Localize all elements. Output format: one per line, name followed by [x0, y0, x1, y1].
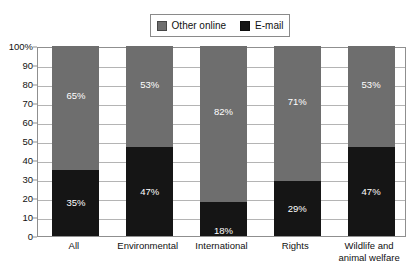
y-axis-tick-label: 60	[0, 118, 33, 128]
x-axis-category-label: Wildlife andanimal welfare	[332, 240, 406, 264]
y-axis-tick-label: 30	[0, 175, 33, 185]
bar-segment-other-online[interactable]: 65%	[52, 46, 99, 170]
bar-segment-email[interactable]: 35%	[52, 170, 99, 237]
bar-group: 29%71%	[274, 48, 321, 236]
bar-value-label: 18%	[214, 226, 233, 236]
bar-segment-other-online[interactable]: 53%	[126, 46, 173, 147]
bar-segment-other-online[interactable]: 82%	[200, 46, 247, 202]
bar-value-label: 35%	[66, 198, 85, 208]
bar-segment-email[interactable]: 18%	[200, 202, 247, 236]
x-axis-category-label: Environmental	[111, 240, 185, 252]
x-axis-category-line: Wildlife and	[332, 240, 406, 252]
y-axis: 100%9080706050403020100	[0, 47, 33, 237]
legend-label-email: E-mail	[255, 21, 283, 31]
plot-area: 35%65%47%53%18%82%29%71%47%53%	[37, 47, 406, 237]
y-axis-tick-label: 70	[0, 99, 33, 109]
bar-value-label: 29%	[288, 204, 307, 214]
bar-segment-email[interactable]: 29%	[274, 181, 321, 236]
x-axis: AllEnvironmentalInternationalRightsWildl…	[37, 240, 406, 274]
bar-group: 35%65%	[52, 48, 99, 236]
bar-value-label: 82%	[214, 107, 233, 117]
bar-segment-email[interactable]: 47%	[348, 147, 395, 236]
x-axis-category-line: International	[185, 240, 259, 252]
square-swatch-black-icon	[240, 21, 250, 31]
x-axis-category-line: All	[37, 240, 111, 252]
chart-legend: Other online E-mail	[150, 14, 290, 37]
y-axis-tick-label: 0	[0, 232, 33, 242]
y-axis-tick-label: 40	[0, 156, 33, 166]
bar-value-label: 71%	[288, 97, 307, 107]
bar-value-label: 47%	[140, 187, 159, 197]
y-axis-tick-label: 90	[0, 61, 33, 71]
x-axis-category-line: Rights	[258, 240, 332, 252]
bar-group: 18%82%	[200, 48, 247, 236]
bar-value-label: 65%	[66, 91, 85, 101]
bar-segment-other-online[interactable]: 71%	[274, 46, 321, 181]
legend-entry-email: E-mail	[240, 21, 283, 31]
y-axis-tick-label: 80	[0, 80, 33, 90]
bar-group: 47%53%	[126, 48, 173, 236]
square-swatch-gray-icon	[157, 21, 167, 31]
x-axis-category-label: Rights	[258, 240, 332, 252]
legend-entry-other-online: Other online	[157, 21, 226, 31]
y-axis-tick-label: 20	[0, 194, 33, 204]
x-axis-category-label: All	[37, 240, 111, 252]
bar-value-label: 47%	[362, 187, 381, 197]
legend-label-other-online: Other online	[172, 21, 226, 31]
x-axis-category-label: International	[185, 240, 259, 252]
bar-segment-other-online[interactable]: 53%	[348, 46, 395, 147]
y-axis-tick-label: 100%	[0, 42, 33, 52]
x-axis-category-line: Environmental	[111, 240, 185, 252]
x-axis-category-line: animal welfare	[332, 252, 406, 264]
bar-value-label: 53%	[362, 80, 381, 90]
bar-segment-email[interactable]: 47%	[126, 147, 173, 236]
y-axis-tick-label: 50	[0, 137, 33, 147]
bar-group: 47%53%	[348, 48, 395, 236]
bar-value-label: 53%	[140, 80, 159, 90]
y-axis-tick-label: 10	[0, 213, 33, 223]
